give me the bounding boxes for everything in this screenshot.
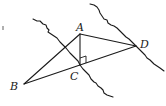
geometry-figure: A B C D [0,0,166,106]
stray-mark [2,26,4,30]
label-c: C [70,70,79,83]
label-d: D [139,38,149,51]
label-b: B [9,80,18,93]
wavy-line-through-d [90,4,164,71]
right-angle-mark [80,56,86,63]
segment-ad [80,34,136,46]
label-a: A [75,21,84,34]
